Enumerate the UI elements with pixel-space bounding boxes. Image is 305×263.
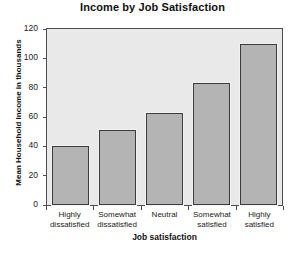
x-axis-category-label-line: Somewhat [94,210,139,220]
bar-series [47,29,282,205]
x-axis-tick-mark [283,206,284,210]
x-axis-category-label-line: dissatisfied [94,220,139,230]
y-axis-tick-label: 20 [7,170,38,180]
y-axis-tick-label: 100 [7,52,38,62]
bar-slot [188,29,235,205]
chart-title: Income by Job Satisfaction [0,1,305,13]
x-axis-category-label-line: Highly [47,210,92,220]
x-axis-category-label: Somewhatdissatisfied [93,210,140,229]
bar-chart-figure: Income by Job Satisfaction Mean Househol… [0,0,305,263]
bar-slot [94,29,141,205]
y-axis-tick-label: 40 [7,140,38,150]
bar[interactable] [240,44,277,205]
bar[interactable] [146,113,183,205]
y-axis-tick-label: 0 [7,199,38,209]
x-axis-category-label-line: dissatisfied [47,220,92,230]
x-axis-category-label: Neutral [141,210,188,229]
bar[interactable] [52,146,89,205]
x-axis-category-label-line: satisfied [189,220,234,230]
x-axis-category-label: Highlysatisfied [236,210,283,229]
bar-slot [47,29,94,205]
bar-slot [141,29,188,205]
x-axis-category-label: Somewhatsatisfied [188,210,235,229]
bar[interactable] [193,83,230,205]
y-axis-tick-label: 80 [7,82,38,92]
y-axis-tick-label: 120 [7,23,38,33]
x-axis-category-label-line: satisfied [237,220,282,230]
bar-slot [235,29,282,205]
x-axis-category-label-line: Somewhat [189,210,234,220]
x-axis-category-label-line: Highly [237,210,282,220]
x-axis-category-label: Highlydissatisfied [46,210,93,229]
bar[interactable] [99,130,136,205]
plot-area: 020406080100120 [46,28,283,206]
y-axis-tick-label: 60 [7,111,38,121]
x-axis-category-label-line: Neutral [142,210,187,220]
x-axis-title: Job satisfaction [46,232,283,242]
x-axis-category-labels: HighlydissatisfiedSomewhatdissatisfiedNe… [46,210,283,229]
